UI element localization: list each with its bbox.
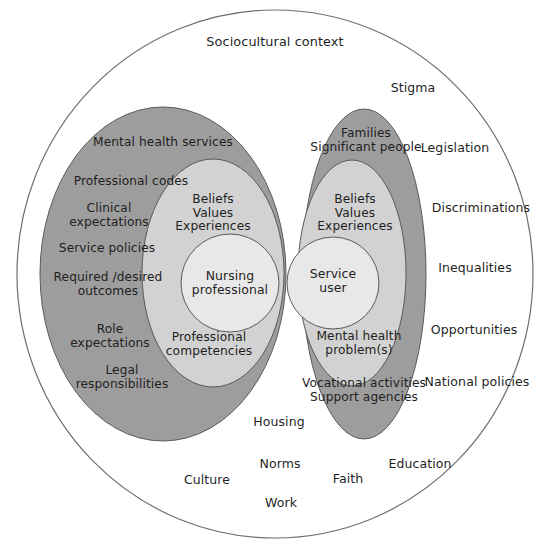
nursing-label-required-desired-outcomes: Required /desired outcomes [54, 271, 163, 298]
context-label-culture: Culture [184, 473, 230, 487]
context-label-inequalities: Inequalities [438, 261, 512, 275]
context-label-stigma: Stigma [391, 81, 436, 95]
nursing-label-service-policies: Service policies [59, 242, 155, 256]
service-user-label-families-significant-people: Families Significant people [310, 127, 421, 154]
nursing-middle-professional-competencies: Professional competencies [166, 331, 252, 358]
context-label-legislation: Legislation [421, 141, 490, 155]
nursing-middle-beliefs-values-experiences: Beliefs Values Experiences [175, 193, 250, 234]
nursing-label-mental-health-services: Mental health services [93, 136, 233, 150]
context-label-norms: Norms [259, 457, 300, 471]
context-label-work: Work [265, 496, 297, 510]
context-label-housing: Housing [253, 415, 305, 429]
service-user-core-label: Service user [310, 267, 357, 295]
context-label-discriminations: Discriminations [432, 201, 530, 215]
service-user-middle-mental-health-problems: Mental health problem(s) [316, 330, 401, 357]
diagram-root: Sociocultural context Stigma Legislation… [0, 0, 551, 558]
nursing-label-professional-codes: Professional codes [74, 175, 189, 189]
service-user-middle-beliefs-values-experiences: Beliefs Values Experiences [317, 193, 392, 234]
nursing-label-clinical-expectations: Clinical expectations [69, 202, 149, 229]
context-label-education: Education [388, 457, 451, 471]
context-label-national-policies: National policies [425, 375, 530, 389]
nursing-label-role-expectations: Role expectations [70, 323, 150, 350]
nursing-label-legal-responsibilities: Legal responsibilities [76, 364, 169, 391]
context-label-opportunities: Opportunities [431, 323, 518, 337]
diagram-title: Sociocultural context [206, 35, 343, 49]
nursing-professional-core-label: Nursing professional [192, 269, 268, 297]
context-label-faith: Faith [333, 472, 364, 486]
service-user-label-vocational-support: Vocational activities Support agencies [302, 377, 426, 404]
